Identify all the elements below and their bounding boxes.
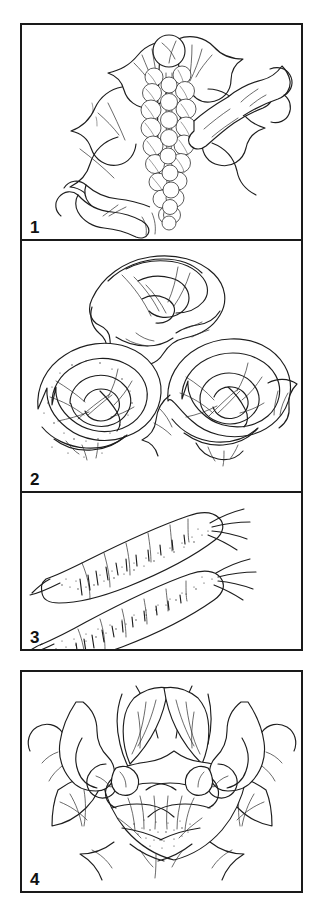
panel-cabbage-heads: 2 Three harvested cabbage heads, one loo…	[22, 241, 301, 493]
right-cabbage-head	[142, 339, 297, 466]
panel-stack: 1 Two hands snapping Brussels sprouts fr…	[20, 23, 303, 651]
panel-number-1: 1	[30, 219, 39, 236]
brussels-sprouts-illustration	[22, 25, 301, 239]
panel-carrots: 3 Two carrots with tops cut back, drawn …	[22, 493, 301, 651]
panel-leafy-greens: 4 Two hands gathering and holding a bunc…	[20, 670, 303, 893]
left-cabbage-head	[38, 343, 161, 460]
figure-sheet: 1 Two hands snapping Brussels sprouts fr…	[0, 0, 321, 922]
panel-number-4: 4	[30, 871, 39, 888]
carrots-illustration	[22, 493, 301, 649]
brussels-sprouts	[141, 66, 196, 230]
cabbage-heads-illustration	[22, 241, 301, 491]
leafy-greens-illustration	[22, 672, 301, 891]
upper-hand	[189, 66, 292, 149]
panel-number-3: 3	[30, 629, 39, 646]
panel-number-2: 2	[30, 471, 39, 488]
lower-hand	[56, 181, 156, 238]
panel-brussels-sprouts: 1 Two hands snapping Brussels sprouts fr…	[22, 25, 301, 241]
